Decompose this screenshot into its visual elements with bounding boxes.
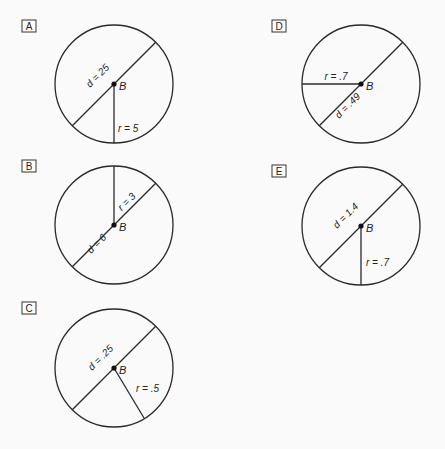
center-point [358, 81, 363, 86]
center-label: B [119, 221, 126, 233]
diameter-label: d = .49 [333, 90, 363, 120]
radius-label: r = .5 [136, 383, 160, 394]
center-point [111, 365, 116, 370]
diameter-label: d = 1.4 [331, 200, 361, 230]
option-letter: A [26, 21, 33, 32]
center-point [358, 223, 363, 228]
radius-label: r = 5 [118, 123, 139, 134]
option-b[interactable]: B B r = 3 d = 6 [22, 160, 173, 284]
option-d[interactable]: D B r = .7 d = .49 [272, 20, 420, 143]
option-e[interactable]: E B d = 1.4 r = .7 [272, 165, 420, 285]
option-c[interactable]: C B d = .25 r = .5 [22, 302, 173, 427]
center-label: B [119, 80, 126, 92]
center-point [111, 222, 116, 227]
diameter-label: d = 25 [84, 61, 112, 89]
diameter-label: d = 6 [85, 231, 109, 255]
option-letter: D [275, 21, 282, 32]
center-point [111, 81, 116, 86]
radius-label: r = .7 [324, 71, 348, 82]
answer-choices-diagram: A B d = 25 r = 5 B B r = 3 d = 6 C B d =… [0, 0, 445, 449]
radius-label: r = 3 [115, 190, 137, 212]
radius-label: r = .7 [366, 257, 390, 268]
center-label: B [366, 222, 373, 234]
option-letter: E [276, 166, 283, 177]
option-letter: B [26, 161, 33, 172]
center-label: B [366, 80, 373, 92]
center-label: B [119, 364, 126, 376]
option-letter: C [25, 303, 32, 314]
option-a[interactable]: A B d = 25 r = 5 [22, 20, 173, 143]
diameter-label: d = .25 [86, 342, 116, 372]
